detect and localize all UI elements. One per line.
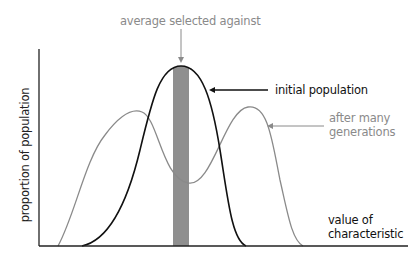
x-axis-label-line1: value of (328, 213, 373, 228)
x-axis-label-line2: characteristic (328, 227, 403, 242)
selected-against-bar (173, 60, 189, 246)
disruptive-selection-diagram: average selected against initial populat… (0, 0, 420, 259)
annotation-initial-population: initial population (275, 83, 368, 98)
annotation-average-selected: average selected against (120, 14, 261, 29)
annotation-after-line2: generations (329, 125, 395, 140)
annotation-after-line1: after many (329, 111, 390, 126)
y-axis-label: proportion of population (18, 88, 32, 223)
top-arrow-head-icon (178, 57, 184, 63)
initial-arrow-head-icon (209, 87, 215, 93)
